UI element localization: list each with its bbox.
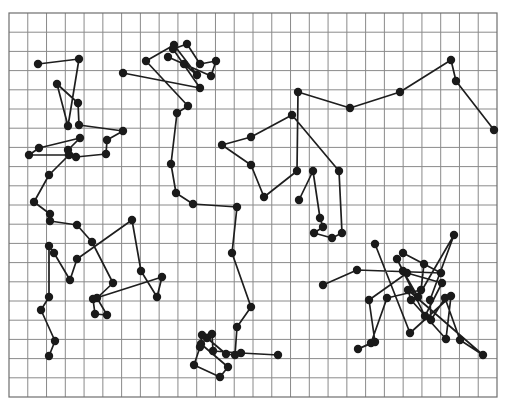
trajectory-node <box>479 351 487 359</box>
trajectory-node <box>51 337 59 345</box>
trajectory-node <box>170 41 178 49</box>
trajectory-node <box>216 373 224 381</box>
trajectory-node <box>53 80 61 88</box>
trajectory-node <box>128 216 136 224</box>
trajectory-node <box>119 127 127 135</box>
trajectory-node <box>153 293 161 301</box>
trajectory-node <box>74 99 82 107</box>
trajectory-node <box>295 196 303 204</box>
trajectory-node <box>45 293 53 301</box>
trajectory-node <box>346 104 354 112</box>
trajectory-node <box>456 336 464 344</box>
trajectory-node <box>142 57 150 65</box>
trajectory-node <box>30 198 38 206</box>
trajectory-node <box>233 203 241 211</box>
trajectory-node <box>427 316 435 324</box>
trajectory-node <box>407 296 415 304</box>
trajectory-node <box>260 193 268 201</box>
trajectory-node <box>196 343 204 351</box>
trajectory-node <box>399 249 407 257</box>
trajectory-node <box>46 217 54 225</box>
trajectory-node <box>309 167 317 175</box>
trajectory-node <box>37 306 45 314</box>
trajectory-node <box>442 335 450 343</box>
trajectory-node <box>354 345 362 353</box>
trajectory-node <box>209 347 217 355</box>
trajectory-path <box>222 60 494 238</box>
trajectory-node <box>288 111 296 119</box>
trajectory-node <box>103 136 111 144</box>
trajectory-node <box>310 229 318 237</box>
trajectory-node <box>76 134 84 142</box>
trajectory-node <box>190 361 198 369</box>
trajectory-node <box>89 295 97 303</box>
trajectory-node <box>189 200 197 208</box>
trajectory-node <box>247 303 255 311</box>
trajectory-node <box>66 276 74 284</box>
trajectory-path <box>41 220 162 356</box>
trajectory-node <box>212 57 220 65</box>
trajectory-node <box>25 151 33 159</box>
trajectory-node <box>383 294 391 302</box>
trajectory-node <box>196 60 204 68</box>
trajectory-node <box>109 279 117 287</box>
trajectory-node <box>167 160 175 168</box>
trajectory-node <box>75 55 83 63</box>
trajectory-node <box>196 84 204 92</box>
trajectory-node <box>50 249 58 257</box>
trajectory-node <box>228 249 236 257</box>
trajectory-node <box>452 77 460 85</box>
trajectory-node <box>406 329 414 337</box>
trajectory-node <box>393 255 401 263</box>
trajectory-node <box>420 260 428 268</box>
trajectory-node <box>319 281 327 289</box>
trajectory-node <box>426 296 434 304</box>
trajectory-node <box>247 133 255 141</box>
trajectory-node <box>319 223 327 231</box>
trajectory-node <box>274 351 282 359</box>
trajectory-node <box>399 267 407 275</box>
trajectory-node <box>222 350 230 358</box>
trajectory-node <box>193 71 201 79</box>
trajectory-node <box>447 56 455 64</box>
trajectory-node <box>224 363 232 371</box>
trajectory-node <box>45 171 53 179</box>
trajectory-node <box>293 167 301 175</box>
trajectory-node <box>34 60 42 68</box>
track-top-center <box>119 40 282 381</box>
trajectory-node <box>233 323 241 331</box>
trajectory-node <box>371 240 379 248</box>
trajectory-node <box>404 286 412 294</box>
trajectory-node <box>137 267 145 275</box>
trajectory-node <box>184 102 192 110</box>
trajectory-node <box>450 231 458 239</box>
trajectory-node <box>294 88 302 96</box>
trajectory-node <box>102 150 110 158</box>
track-top-left <box>25 55 127 218</box>
trajectory-node <box>338 229 346 237</box>
trajectory-node <box>365 296 373 304</box>
trajectory-node <box>396 88 404 96</box>
trajectory-node <box>447 292 455 300</box>
trajectory-node <box>64 122 72 130</box>
trajectory-node <box>45 242 53 250</box>
trajectory-node <box>198 331 206 339</box>
trajectory-node <box>247 161 255 169</box>
trajectory-node <box>164 53 172 61</box>
trajectory-node <box>335 167 343 175</box>
trajectory-node <box>119 69 127 77</box>
trajectory-node <box>65 151 73 159</box>
trajectory-node <box>173 109 181 117</box>
trajectory-node <box>237 349 245 357</box>
trajectory-node <box>353 266 361 274</box>
grid <box>9 13 497 397</box>
trajectories <box>25 40 498 381</box>
trajectory-node <box>490 126 498 134</box>
track-top-right <box>218 56 498 242</box>
track-bottom-left <box>37 216 166 360</box>
trajectory-node <box>73 255 81 263</box>
trajectory-node <box>207 72 215 80</box>
trajectory-node <box>75 121 83 129</box>
trajectory-node <box>437 269 445 277</box>
trajectory-node <box>180 60 188 68</box>
